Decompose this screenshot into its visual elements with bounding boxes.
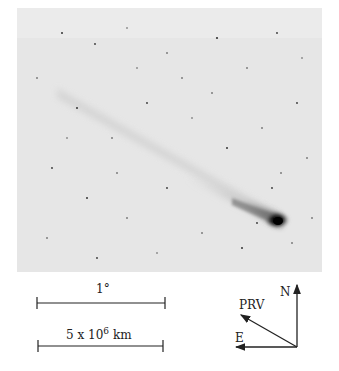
scale-label-km-base: 5 x 10	[66, 328, 103, 342]
scale-bar-degree	[37, 297, 165, 309]
prv-label: PRV	[239, 298, 264, 312]
scale-label-km: 5 x 106 km	[66, 326, 132, 342]
scale-label-km-unit: km	[113, 328, 132, 342]
scale-label-km-exponent: 6	[103, 326, 109, 336]
scale-label-degree: 1°	[96, 282, 110, 296]
prv-arrow	[241, 315, 297, 347]
east-label: E	[235, 331, 244, 345]
north-label: N	[280, 285, 291, 299]
